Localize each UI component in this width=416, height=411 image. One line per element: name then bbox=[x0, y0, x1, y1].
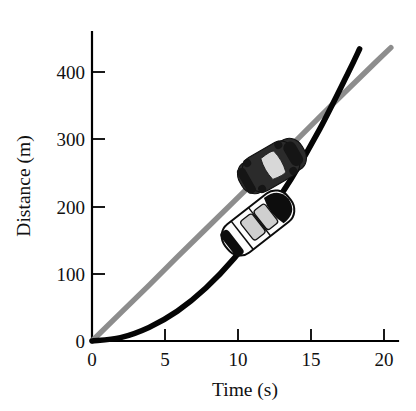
x-tick-label-0: 0 bbox=[87, 349, 97, 370]
chart-figure: 400 300 200 100 0 0 5 10 15 20 Time (s) … bbox=[0, 0, 416, 411]
x-tick-label-5: 5 bbox=[160, 349, 170, 370]
x-tick-label-10: 10 bbox=[229, 349, 248, 370]
y-axis-title: Distance (m) bbox=[13, 135, 35, 236]
x-tick-label-15: 15 bbox=[302, 349, 321, 370]
y-tick-label-100: 100 bbox=[57, 264, 86, 285]
x-axis-title: Time (s) bbox=[212, 379, 278, 401]
y-tick-label-200: 200 bbox=[57, 197, 86, 218]
y-tick-label-400: 400 bbox=[57, 62, 86, 83]
y-tick-label-300: 300 bbox=[57, 129, 86, 150]
y-tick-label-0: 0 bbox=[76, 331, 86, 352]
x-tick-label-20: 20 bbox=[375, 349, 394, 370]
distance-time-chart: 400 300 200 100 0 0 5 10 15 20 Time (s) … bbox=[0, 0, 416, 411]
